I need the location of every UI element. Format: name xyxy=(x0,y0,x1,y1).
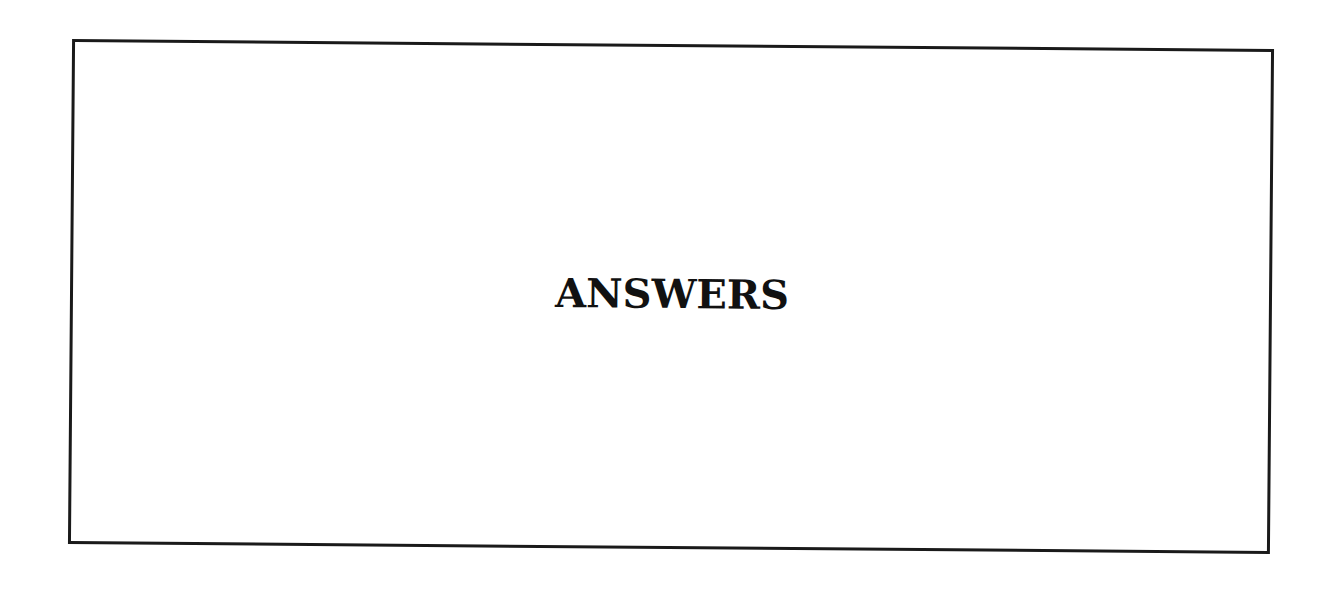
bordered-frame: ANSWERS xyxy=(68,39,1274,554)
page: ANSWERS xyxy=(0,0,1333,596)
page-title: ANSWERS xyxy=(555,269,789,318)
